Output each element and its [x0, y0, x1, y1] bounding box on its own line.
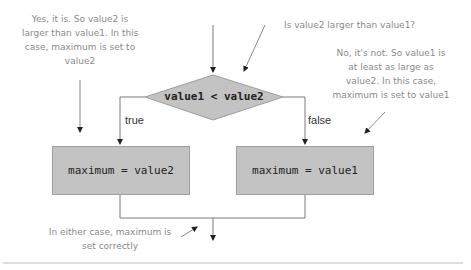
true-action-label: maximum = value2 — [68, 164, 174, 177]
note-line: case, maximum is set to — [22, 40, 138, 54]
decision-label: value1 < value2 — [150, 90, 278, 103]
left-yes-note: Yes, it is. So value2 is larger than val… — [22, 12, 138, 68]
note-line: No, it's not. So value1 is — [324, 46, 458, 60]
note-line: In either case, maximum is — [44, 225, 176, 239]
note-line: value2 — [22, 54, 138, 68]
note-line: value2. In this case, — [324, 74, 458, 88]
right-no-note: No, it's not. So value1 is at least as l… — [324, 46, 458, 102]
note-line: Yes, it is. So value2 is — [22, 12, 138, 26]
true-action-box: maximum = value2 — [52, 146, 190, 195]
top-question-note: Is value2 larger than value1? — [284, 18, 415, 32]
top-annotation-arrow — [244, 25, 265, 71]
flowchart-diagram: value1 < value2 true false maximum = val… — [0, 0, 471, 270]
bottom-annotation-arrow — [181, 227, 197, 237]
note-line: at least as large as — [324, 60, 458, 74]
false-action-box: maximum = value1 — [236, 146, 374, 195]
bottom-either-note: In either case, maximum is set correctly — [44, 225, 176, 253]
note-line: maximum is set to value1 — [324, 88, 458, 102]
true-label: true — [125, 114, 144, 126]
false-label: false — [308, 114, 331, 126]
note-line: larger than value1. In this — [22, 26, 138, 40]
merge-line — [120, 195, 305, 218]
note-line: set correctly — [44, 239, 176, 253]
false-action-label: maximum = value1 — [252, 164, 358, 177]
false-branch-line — [283, 97, 305, 144]
right-annotation-arrow — [365, 112, 385, 133]
